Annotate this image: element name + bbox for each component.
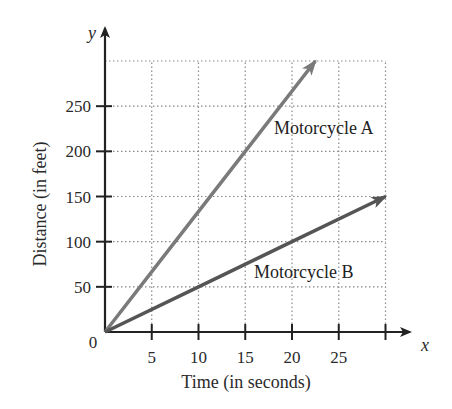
- labels: 510152025501001502002500xyTime (in secon…: [30, 23, 429, 393]
- x-tick-label: 15: [237, 348, 254, 367]
- x-tick-label: 10: [190, 348, 207, 367]
- distance-time-chart: 510152025501001502002500xyTime (in secon…: [0, 0, 452, 409]
- x-axis-title: Time (in seconds): [181, 372, 310, 393]
- axes: [96, 28, 410, 340]
- x-axis-variable: x: [420, 335, 429, 355]
- y-tick-label: 50: [74, 278, 91, 297]
- y-tick-label: 150: [66, 188, 92, 207]
- y-tick-label: 100: [66, 233, 92, 252]
- x-tick-label: 20: [284, 348, 301, 367]
- x-tick-label: 5: [148, 348, 157, 367]
- y-axis-variable: y: [86, 23, 96, 43]
- series-label-motorcycle-a: Motorcycle A: [274, 118, 373, 138]
- series-label-motorcycle-b: Motorcycle B: [254, 262, 353, 282]
- x-tick-label: 25: [330, 348, 347, 367]
- y-tick-label: 200: [66, 142, 92, 161]
- series-line-motorcycle-a: [105, 61, 315, 332]
- y-tick-label: 250: [66, 97, 92, 116]
- y-axis-title: Distance (in feet): [30, 142, 51, 267]
- origin-label: 0: [89, 333, 98, 352]
- grid-lines: [105, 61, 386, 332]
